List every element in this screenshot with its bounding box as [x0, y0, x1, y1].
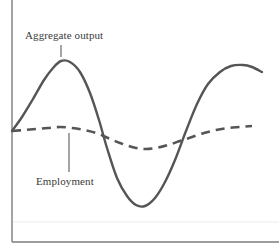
employment-label: Employment [36, 175, 94, 187]
employment-curve [12, 126, 252, 149]
business-cycle-figure: Aggregate output Employment [0, 0, 279, 248]
aggregate-output-label: Aggregate output [25, 29, 103, 41]
